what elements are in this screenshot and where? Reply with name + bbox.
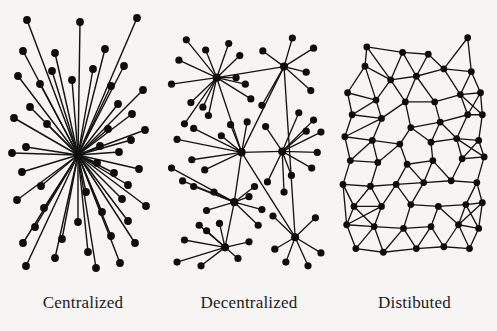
network-edge (424, 161, 433, 183)
network-node (247, 95, 254, 102)
network-edge (468, 38, 472, 72)
network-node (317, 249, 324, 256)
network-node (190, 125, 197, 132)
network-edge (444, 69, 460, 95)
network-node (473, 179, 480, 186)
network-edge (372, 140, 378, 162)
network-node (288, 172, 295, 179)
network-node (347, 157, 354, 164)
network-edge (177, 139, 242, 152)
network-edge (479, 115, 483, 141)
network-node (210, 188, 217, 195)
network-node (84, 248, 92, 256)
network-node (133, 14, 141, 22)
network-edge (172, 78, 217, 84)
network-node (264, 178, 271, 185)
network-node (183, 36, 190, 43)
network-node (196, 222, 203, 229)
network-node (101, 45, 109, 53)
network-hub-node (230, 198, 238, 206)
network-node (271, 246, 278, 253)
network-edge (347, 225, 356, 249)
network-node (425, 51, 432, 58)
network-node (462, 201, 469, 208)
network-node (396, 141, 403, 148)
network-node (413, 245, 420, 252)
network-edge (440, 115, 468, 122)
network-node (255, 222, 262, 229)
network-node (349, 111, 356, 118)
network-node (295, 109, 302, 116)
edge-layer (12, 18, 146, 268)
network-node (312, 214, 319, 221)
network-node (314, 149, 321, 156)
network-node (428, 139, 435, 146)
network-edge (371, 186, 382, 206)
network-edge (440, 122, 457, 138)
network-edge (466, 183, 477, 205)
network-edge (383, 228, 403, 252)
network-node (128, 110, 136, 118)
network-node (373, 97, 380, 104)
network-node (18, 168, 26, 176)
network-node (242, 81, 249, 88)
network-edge (26, 155, 78, 266)
network-node (114, 100, 122, 108)
network-node (13, 196, 21, 204)
network-edge (382, 102, 406, 119)
network-node (236, 52, 243, 59)
network-edge (404, 228, 417, 248)
network-node (244, 118, 251, 125)
edge-layer (343, 38, 484, 253)
network-node (448, 177, 455, 184)
network-edge (345, 137, 373, 141)
network-node (402, 99, 409, 106)
network-edge (27, 20, 78, 155)
network-edge (435, 95, 461, 102)
network-edge (396, 164, 407, 184)
network-edge (416, 227, 431, 249)
network-edge (451, 181, 477, 183)
network-node (234, 255, 241, 262)
network-node (124, 181, 132, 189)
network-node (19, 47, 27, 55)
network-node (374, 159, 381, 166)
network-node (48, 67, 56, 75)
network-node (93, 159, 101, 167)
network-node (413, 73, 420, 80)
network-edge (371, 162, 378, 186)
network-node (96, 142, 104, 150)
network-node (8, 149, 16, 157)
network-node (378, 115, 385, 122)
network-edge (267, 151, 282, 181)
network-edge (424, 181, 452, 183)
network-node (43, 120, 51, 128)
network-node (37, 182, 45, 190)
network-edge (405, 102, 411, 128)
network-node (179, 177, 186, 184)
network-node (58, 235, 66, 243)
network-node (429, 157, 436, 164)
network-edge (411, 122, 440, 128)
network-node (363, 44, 370, 51)
network-node (199, 104, 206, 111)
network-edge (405, 76, 416, 102)
network-node (168, 164, 175, 171)
network-node (23, 16, 31, 24)
network-edge (376, 80, 391, 100)
network-node (139, 86, 147, 94)
network-node (245, 193, 252, 200)
network-edge (234, 152, 241, 202)
network-node (399, 49, 406, 56)
network-node (19, 239, 27, 247)
network-hub-node (278, 147, 286, 155)
network-node (201, 166, 208, 173)
network-node (218, 132, 225, 139)
panel-distributed: Distibuted (332, 0, 497, 331)
network-node (51, 254, 59, 262)
network-node (407, 201, 414, 208)
network-hub-node (221, 243, 229, 251)
network-node (455, 221, 462, 228)
network-node (310, 117, 317, 124)
network-node (181, 120, 188, 127)
